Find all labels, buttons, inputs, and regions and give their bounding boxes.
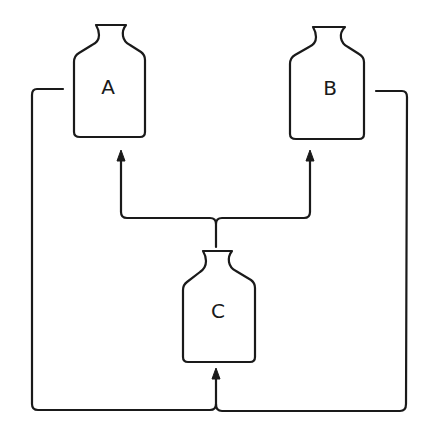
bottle-a: A [74,25,145,137]
arrow-up-icon [306,150,314,161]
bottle-b-label: B [323,76,337,100]
bottle-flow-diagram: A B C [0,0,427,433]
branch-line [121,158,310,224]
bottle-c-label: C [211,299,225,323]
arrow-up-icon [117,150,125,161]
bottle-a-label: A [101,75,115,99]
connector-c-to-a-b [117,150,314,247]
bottle-c: C [183,251,255,362]
bottle-b: B [290,27,364,139]
arrow-up-icon [212,368,220,379]
